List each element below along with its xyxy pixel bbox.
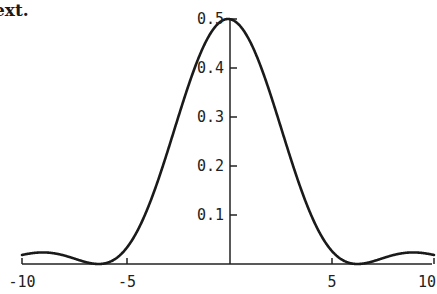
data-curve [22,19,434,264]
y-tick-label-0.2: 0.2 [197,157,224,175]
x-tick-label-10: 10 [418,273,436,291]
plot-svg: -10 -5 5 10 0.1 0.2 0.3 0.4 0.5 [0,0,437,294]
x-tick-label--10: -10 [8,273,35,291]
y-tick-label-0.1: 0.1 [197,206,224,224]
plot-figure: -10 -5 5 10 0.1 0.2 0.3 0.4 0.5 [0,0,437,294]
y-tick-label-0.5: 0.5 [197,10,224,28]
x-tick-label-5: 5 [327,273,336,291]
y-axis-ticks [230,19,237,215]
y-tick-label-0.4: 0.4 [197,59,224,77]
y-tick-label-0.3: 0.3 [197,108,224,126]
figure-page: ext. -1 [0,0,437,294]
x-tick-label--5: -5 [118,273,136,291]
